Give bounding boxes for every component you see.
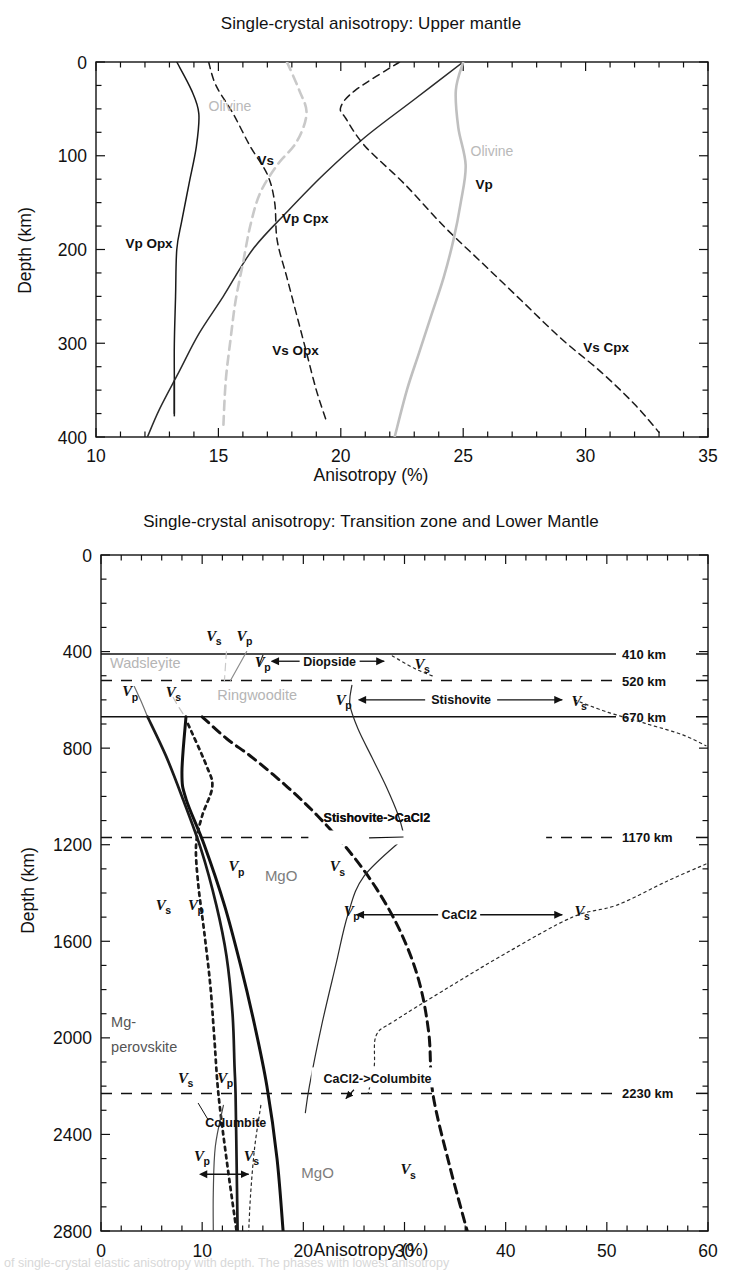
svg-text:p: p [198, 904, 204, 916]
svg-text:s: s [581, 700, 587, 712]
velocity-symbol: Vs [571, 693, 587, 713]
phase-label: MgO [301, 1164, 334, 1181]
annotation: Diopside [273, 655, 384, 669]
data-curve [223, 62, 306, 428]
velocity-symbol: Vs [156, 897, 172, 917]
data-curve [148, 717, 238, 1231]
phase-label: Mg- [111, 1014, 136, 1030]
y-tick-label: 0 [77, 53, 87, 73]
y-tick-label: 400 [63, 642, 92, 662]
curve-label: Vs [258, 153, 275, 168]
phase-label-columbite: Columbite [205, 1116, 266, 1130]
phase-label: MgO [265, 867, 298, 884]
svg-text:p: p [238, 866, 244, 878]
velocity-symbol: Vs [330, 858, 346, 878]
svg-text:s: s [175, 691, 181, 703]
svg-text:p: p [246, 635, 252, 647]
velocity-symbol: Vp [336, 692, 352, 712]
y-tick-label: 400 [58, 428, 87, 448]
svg-text:s: s [216, 635, 222, 647]
y-tick-label: 2800 [53, 1222, 92, 1242]
y-tick-label: 2000 [53, 1028, 92, 1048]
annotation-label-cacl2-columbite: CaCl2->Columbite [324, 1072, 432, 1086]
label-backdrop [308, 830, 546, 844]
data-curve [395, 62, 466, 437]
svg-text:Stishovite: Stishovite [431, 693, 491, 707]
curve-label: Vs Cpx [583, 340, 629, 355]
svg-text:p: p [345, 699, 351, 711]
velocity-symbol: Vs [178, 1070, 194, 1090]
figure-root: Single-crystal anisotropy: Upper mantle … [0, 0, 742, 1274]
velocity-symbol: Vs [400, 1161, 416, 1181]
svg-text:s: s [339, 866, 345, 878]
x-tick-label: 15 [209, 446, 228, 466]
velocity-symbol: Vs [166, 684, 182, 704]
svg-text:p: p [264, 661, 270, 673]
annotation-label-stishovite-cacl2-top: Stishovite->CaCl2 [324, 811, 431, 825]
curve-label: Vp Cpx [282, 211, 329, 226]
velocity-symbol: Vp [255, 654, 271, 674]
axes-frame [96, 62, 708, 437]
data-curve [209, 62, 326, 420]
svg-text:Diopside: Diopside [303, 655, 356, 669]
y-tick-label: 2400 [53, 1125, 92, 1145]
svg-text:s: s [187, 1077, 193, 1089]
velocity-symbol: Vs [206, 628, 222, 648]
annotation: Stishovite [360, 693, 562, 707]
velocity-symbol: Vs [244, 1148, 260, 1168]
velocity-symbol: Vp [228, 858, 244, 878]
curve-label: Vp [475, 177, 492, 192]
boundary-depth-label: 2230 km [622, 1086, 673, 1101]
svg-text:s: s [584, 910, 590, 922]
svg-text:p: p [353, 910, 359, 922]
svg-text:p: p [204, 1155, 210, 1167]
chart-panel-lower-mantle: Single-crystal anisotropy: Transition zo… [0, 500, 742, 1274]
y-tick-label: 300 [58, 334, 87, 354]
velocity-symbol: Vs [415, 656, 431, 676]
x-tick-label: 35 [698, 446, 717, 466]
y-tick-label: 800 [63, 739, 92, 759]
data-curve [224, 652, 226, 681]
y-tick-label: 1200 [53, 835, 92, 855]
velocity-symbol: Vp [237, 628, 253, 648]
svg-text:s: s [410, 1169, 416, 1181]
velocity-symbol: Vp [122, 683, 138, 703]
chart-panel-upper-mantle: Single-crystal anisotropy: Upper mantle … [0, 0, 742, 500]
velocity-symbol: Vp [217, 1070, 233, 1090]
velocity-symbol: Vs [574, 903, 590, 923]
data-curve [174, 62, 199, 414]
curve-label: Vp Opx [125, 236, 173, 251]
svg-text:p: p [132, 691, 138, 703]
curve-label: Vs Opx [272, 343, 319, 358]
svg-text:CaCl2: CaCl2 [441, 908, 476, 922]
x-tick-label: 20 [331, 446, 351, 466]
svg-text:s: s [165, 904, 171, 916]
phase-label: perovskite [111, 1039, 177, 1055]
boundary-depth-label: 410 km [622, 647, 666, 662]
boundary-depth-label: 520 km [622, 674, 666, 689]
phase-label: Ringwoodite [217, 687, 297, 703]
curve-label: Olivine [209, 98, 252, 114]
velocity-symbol: Vp [194, 1148, 210, 1168]
plot-area-lower-mantle: 0102030405060040080012001600200024002800… [0, 500, 742, 1274]
data-curve [340, 62, 659, 432]
phase-label: Wadsleyite [110, 655, 180, 671]
svg-text:s: s [253, 1155, 259, 1167]
y-tick-label: 100 [58, 146, 87, 166]
svg-text:p: p [227, 1077, 233, 1089]
boundary-depth-label: 1170 km [622, 830, 673, 845]
x-tick-label: 30 [576, 446, 596, 466]
curve-label: Olivine [471, 143, 514, 159]
y-tick-label: 200 [58, 240, 87, 260]
x-tick-label: 25 [453, 446, 472, 466]
velocity-symbol: Vp [188, 897, 204, 917]
data-curve [230, 652, 246, 681]
axes-frame [101, 555, 708, 1231]
y-tick-label: 0 [82, 546, 92, 566]
svg-text:s: s [424, 663, 430, 675]
figure-caption: of single-crystal elastic anisotropy wit… [0, 1256, 742, 1270]
leader-line [346, 1090, 354, 1099]
leader-line [198, 1103, 208, 1120]
y-tick-label: 1600 [53, 932, 92, 952]
x-tick-label: 10 [86, 446, 106, 466]
